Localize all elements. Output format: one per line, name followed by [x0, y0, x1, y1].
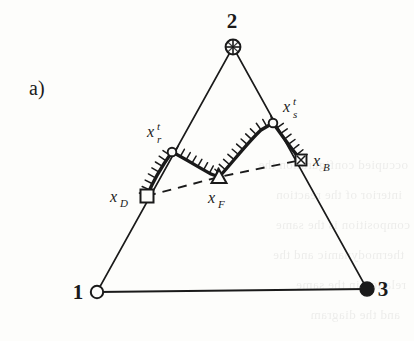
front-hatch-tick	[152, 168, 158, 172]
node-xB-marker-crossed-square	[296, 155, 307, 166]
svg-text:x: x	[146, 123, 154, 140]
vertex-markers	[91, 40, 374, 299]
vertex-3-label: 3	[378, 277, 389, 301]
figure-root: occupied configuration theinterior of th…	[0, 0, 414, 341]
node-xF-label: x F	[207, 189, 225, 210]
vertex-2-label: 2	[227, 9, 238, 33]
node-xr-marker-open-circle	[168, 148, 177, 157]
svg-text:s: s	[293, 108, 297, 120]
triangle-edge-1-2	[97, 47, 233, 292]
front-hatch-tick	[232, 149, 237, 154]
svg-text:x: x	[109, 188, 117, 205]
front-hatch-tick	[210, 166, 213, 172]
front-hatch-tick	[250, 129, 255, 134]
svg-text:x: x	[282, 98, 290, 115]
front-hatch-tick	[155, 162, 161, 166]
ternary-phase-diagram: a) 1 2 3 x D x t r x F x t s x B	[0, 0, 414, 341]
node-xr-label: x t r	[146, 120, 162, 145]
front-hatch-tick	[282, 129, 288, 133]
front-hatch-tick	[187, 153, 191, 159]
front-hatch-tick	[293, 145, 299, 149]
node-xs-marker-open-circle	[269, 119, 278, 128]
vertex-2-marker-crossed-circle	[226, 40, 241, 55]
front-hatch-tick	[241, 139, 246, 144]
node-xD-marker-open-square	[141, 190, 154, 203]
front-hatch-tick	[224, 159, 229, 164]
front-hatch-tick	[263, 119, 267, 125]
front-hatch-tick	[228, 154, 233, 159]
svg-text:F: F	[217, 198, 225, 210]
front-hatch-tick	[256, 123, 260, 129]
front-hatch-tick	[204, 163, 207, 169]
triangle-edge-2-3	[233, 47, 367, 289]
front-hatch-tick	[285, 134, 291, 138]
panel-label: a)	[29, 77, 45, 100]
node-xB-label: x B	[312, 152, 330, 173]
svg-text:r: r	[157, 133, 162, 145]
vertex-3-marker-filled-circle	[360, 282, 374, 296]
svg-text:x: x	[207, 189, 215, 206]
node-xD-label: x D	[109, 188, 128, 209]
svg-text:B: B	[323, 161, 330, 173]
svg-text:x: x	[312, 152, 320, 169]
node-xs-label: x t s	[282, 95, 297, 120]
front-hatch-tick	[237, 144, 242, 149]
front-hatch-tick	[219, 164, 224, 169]
vertex-1-label: 1	[73, 280, 84, 304]
front-hatch-tick	[148, 174, 154, 177]
front-hatch-tick	[298, 150, 303, 154]
front-hatch-tick	[278, 123, 284, 127]
vertex-1-marker-open-circle	[91, 286, 103, 298]
triangle-edge-1-3	[97, 289, 367, 292]
front-hatch-tick	[198, 159, 202, 165]
front-hatch-tick	[246, 134, 251, 139]
svg-text:t: t	[293, 95, 297, 107]
front-hatch-tick	[193, 156, 197, 162]
svg-text:t: t	[157, 120, 161, 132]
front-hatch-tick	[145, 180, 151, 183]
front-hatch-tick	[289, 140, 295, 144]
front-hatch-tick	[181, 149, 184, 155]
svg-text:D: D	[119, 197, 128, 209]
front-hatch-tick	[159, 156, 165, 160]
